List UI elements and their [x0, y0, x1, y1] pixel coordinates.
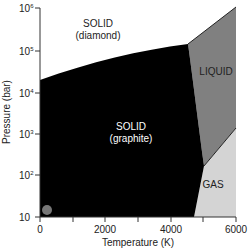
ambient-conditions-dot	[42, 205, 52, 215]
label-graphite-line1: SOLID	[116, 121, 146, 132]
x-tick-labels: 0 2000 4000 6000	[37, 224, 247, 235]
x-tick-4000: 4000	[160, 224, 183, 235]
x-ticks	[40, 217, 236, 222]
y-tick-1e6: 10	[19, 3, 31, 14]
label-diamond-line2: (diamond)	[75, 30, 120, 41]
y-tick-1e3: 10	[19, 129, 31, 140]
svg-text:106: 106	[19, 3, 34, 14]
svg-text:103: 103	[19, 129, 34, 140]
phase-diagram: 106 105 104 103 102 10 0 2000 4000 6000 …	[0, 0, 250, 248]
y-tick-1e2: 10	[19, 170, 31, 181]
svg-text:105: 105	[19, 46, 34, 57]
y-tick-10: 10	[19, 212, 31, 223]
y-ticks	[35, 8, 40, 217]
svg-text:102: 102	[19, 170, 34, 181]
label-liquid: LIQUID	[199, 66, 232, 77]
x-axis-label: Temperature (K)	[102, 237, 174, 248]
label-graphite-line2: (graphite)	[110, 133, 153, 144]
x-tick-2000: 2000	[94, 224, 117, 235]
x-tick-6000: 6000	[225, 224, 248, 235]
label-diamond-line1: SOLID	[83, 18, 113, 29]
y-tick-1e5: 10	[19, 46, 31, 57]
svg-text:10: 10	[19, 212, 31, 223]
svg-text:104: 104	[19, 88, 34, 99]
y-axis-label: Pressure (bar)	[1, 80, 12, 144]
y-tick-1e4: 10	[19, 88, 31, 99]
y-tick-labels: 106 105 104 103 102 10	[19, 3, 34, 223]
x-tick-0: 0	[37, 224, 43, 235]
label-gas: GAS	[202, 179, 223, 190]
